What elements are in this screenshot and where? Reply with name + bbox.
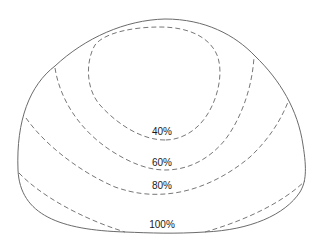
contour-100-right xyxy=(205,181,305,232)
label-100: 100% xyxy=(149,219,175,230)
isodose-diagram: 40% 60% 80% 100% xyxy=(0,0,322,247)
contour-100-left xyxy=(19,173,125,232)
label-60: 60% xyxy=(152,157,172,168)
contour-40 xyxy=(88,27,220,140)
contour-60 xyxy=(55,57,254,170)
label-80: 80% xyxy=(152,180,172,191)
label-40: 40% xyxy=(152,126,172,137)
